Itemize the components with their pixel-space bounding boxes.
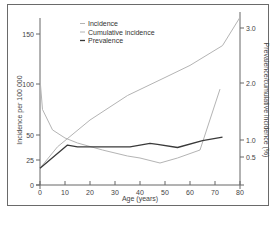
y-left-tick-label: 0 [30, 182, 34, 189]
y-left-tick-label: 50 [26, 132, 34, 139]
legend-label: Cumulative incidence [88, 29, 155, 36]
x-tick-label: 10 [61, 189, 69, 196]
x-tick-label: 80 [236, 189, 244, 196]
y-left-tick-label: 150 [22, 31, 34, 38]
y-right-tick-label: 2.0 [246, 80, 256, 87]
y-right-axis-title: Prevalence/cumulative incidence (%) [262, 43, 270, 158]
legend-label: Prevalence [88, 37, 123, 44]
y-right-tick-label: 3.0 [246, 25, 256, 32]
series-incidence [40, 79, 220, 163]
legend-label: Incidence [88, 20, 118, 27]
y-right-tick-label: 0.5 [246, 154, 256, 161]
y-left-tick-label: 25 [26, 157, 34, 164]
x-tick-label: 0 [38, 189, 42, 196]
x-axis-title: Age (years) [122, 195, 158, 203]
line-chart: 01020304050607080025501001500.51.02.03.0… [0, 0, 277, 226]
x-tick-label: 30 [111, 189, 119, 196]
x-tick-label: 70 [211, 189, 219, 196]
axes: 01020304050607080025501001500.51.02.03.0 [22, 12, 256, 196]
series-lines [40, 17, 240, 168]
series-prevalence [40, 137, 223, 168]
y-right-tick-label: 1.0 [246, 137, 256, 144]
x-tick-label: 60 [186, 189, 194, 196]
legend: IncidenceCumulative incidencePrevalence [80, 20, 155, 44]
x-tick-label: 20 [86, 189, 94, 196]
y-left-tick-label: 100 [22, 81, 34, 88]
y-left-axis-title: Incidence per 100 000 [16, 75, 24, 144]
x-tick-label: 50 [161, 189, 169, 196]
